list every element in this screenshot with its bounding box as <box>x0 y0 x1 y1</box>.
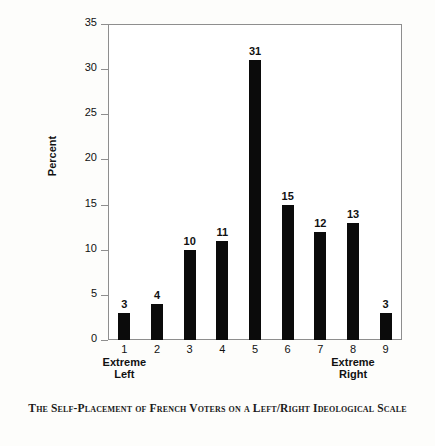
x-tick-label: 9 <box>366 343 406 355</box>
bar-rect <box>118 313 130 340</box>
y-tick-label: 30 <box>85 61 97 73</box>
x-axis-end-label-line2: Right <box>298 369 408 381</box>
bar: 12 <box>314 24 326 340</box>
bar-value-label: 3 <box>366 298 406 310</box>
y-tick-label: 20 <box>85 151 97 163</box>
y-tick-mark <box>101 295 108 296</box>
x-axis-end-label-line1: Extreme <box>69 357 179 369</box>
y-tick-mark <box>101 114 108 115</box>
bar-value-label: 4 <box>137 289 177 301</box>
bar: 13 <box>347 24 359 340</box>
bar-rect <box>380 313 392 340</box>
bar: 3 <box>118 24 130 340</box>
bar-rect <box>282 205 294 340</box>
figure-caption: The Self-Placement of French Voters on a… <box>0 402 435 414</box>
y-tick-label: 35 <box>85 16 97 28</box>
y-axis-label: Percent <box>46 96 58 216</box>
y-tick-label: 10 <box>85 242 97 254</box>
bar: 31 <box>249 24 261 340</box>
x-axis-end-label: ExtremeRight <box>298 357 408 380</box>
x-axis-end-label: ExtremeLeft <box>69 357 179 380</box>
figure: Percent 05101520253035 341011311512133 1… <box>0 0 435 446</box>
bar-value-label: 15 <box>268 190 308 202</box>
bar-rect <box>314 232 326 340</box>
y-tick-label: 0 <box>91 332 97 344</box>
y-tick-label: 5 <box>91 287 97 299</box>
y-tick-mark <box>101 24 108 25</box>
bar-rect <box>151 304 163 340</box>
bar-rect <box>249 60 261 340</box>
bar: 11 <box>216 24 228 340</box>
bar: 15 <box>282 24 294 340</box>
y-tick-mark <box>101 159 108 160</box>
y-tick-mark <box>101 205 108 206</box>
x-axis-end-label-line2: Left <box>69 369 179 381</box>
bar-rect <box>184 250 196 340</box>
bar: 3 <box>380 24 392 340</box>
bar-value-label: 31 <box>235 45 275 57</box>
y-tick-label: 25 <box>85 106 97 118</box>
y-tick-mark <box>101 250 108 251</box>
bar-rect <box>347 223 359 340</box>
bar: 4 <box>151 24 163 340</box>
y-tick-mark <box>101 340 108 341</box>
bar: 10 <box>184 24 196 340</box>
y-tick-label: 15 <box>85 197 97 209</box>
bar-value-label: 11 <box>202 226 242 238</box>
x-axis-end-label-line1: Extreme <box>298 357 408 369</box>
bar-rect <box>216 241 228 340</box>
y-tick-mark <box>101 69 108 70</box>
bar-value-label: 13 <box>333 208 373 220</box>
